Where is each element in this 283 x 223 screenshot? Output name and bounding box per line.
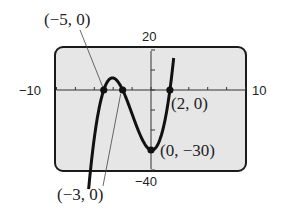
xmax-label: 10 bbox=[252, 84, 266, 97]
point-label-neg5: (−5, 0) bbox=[44, 11, 90, 28]
ymin-label: −40 bbox=[135, 175, 157, 188]
point-label-neg3: (−3, 0) bbox=[57, 186, 103, 203]
point-label-y-intercept: (0, −30) bbox=[160, 142, 215, 159]
xmin-label: −10 bbox=[19, 84, 41, 97]
ymax-label: 20 bbox=[142, 30, 156, 43]
point-label-2: (2, 0) bbox=[171, 95, 208, 112]
